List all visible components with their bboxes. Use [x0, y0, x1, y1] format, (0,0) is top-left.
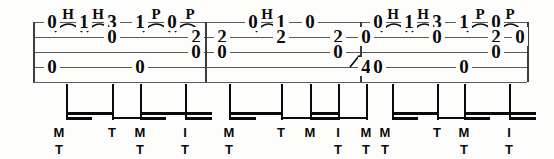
note-stem [229, 84, 231, 120]
fingering-top: M [221, 126, 237, 139]
note-stem [366, 84, 368, 120]
tab-number: 0 [44, 57, 60, 76]
tab-number: 0 [188, 42, 204, 61]
beam [464, 117, 490, 120]
fingering-top: M [456, 126, 472, 139]
note-stem [338, 84, 340, 120]
tab-number: 1 [456, 12, 472, 31]
note-stem [509, 84, 511, 120]
barline [205, 22, 207, 82]
tab-number: 0 [164, 12, 180, 31]
beam [185, 117, 212, 120]
note-stem [185, 84, 187, 120]
fingering-top: M [302, 126, 318, 139]
beam [464, 112, 509, 115]
tab-number: 0 [214, 42, 230, 61]
articulation-label: H [385, 7, 401, 22]
articulation-label: P [502, 7, 518, 22]
fingering-top: M [377, 126, 393, 139]
articulation-label: P [472, 7, 488, 22]
staff-line [33, 67, 527, 68]
fingering-top: T [429, 126, 445, 139]
beam [66, 112, 112, 115]
fingering-bottom: T [132, 143, 148, 156]
note-stem [140, 84, 142, 120]
fingering-bottom: T [456, 143, 472, 156]
tab-number: 0 [456, 57, 472, 76]
note-stem [112, 84, 114, 120]
tab-number: 0 [330, 42, 346, 61]
beam [509, 112, 536, 115]
tab-number: 0 [245, 12, 261, 31]
tab-number: 0 [44, 12, 60, 31]
note-stem [392, 84, 394, 120]
beam [112, 117, 140, 119]
tablature-sheet: HHPPHHHPP 001301002020012020040013010020… [0, 0, 554, 159]
fingering-bottom: T [377, 143, 393, 156]
fingering-bottom: T [330, 143, 346, 156]
tab-number: 1 [76, 12, 92, 31]
articulation-label: P [148, 7, 164, 22]
beam [310, 112, 338, 115]
fingering-top: T [273, 126, 289, 139]
tab-number: 2 [273, 27, 289, 46]
fingering-bottom: T [221, 143, 237, 156]
fingering-top: I [501, 126, 517, 139]
beam [66, 117, 92, 120]
fingering-top: I [177, 126, 193, 139]
beam [437, 117, 464, 119]
note-stem [66, 84, 68, 120]
beam [310, 117, 338, 120]
fingering-bottom: T [177, 143, 193, 156]
beam [338, 117, 366, 119]
tab-number: 0 [104, 27, 120, 46]
staff-line [33, 82, 527, 83]
tab-number: 0 [488, 42, 504, 61]
beam [392, 112, 437, 115]
note-stem [437, 84, 439, 120]
fingering-bottom: T [358, 143, 374, 156]
beam [140, 117, 166, 120]
note-stem [464, 84, 466, 120]
note-stem [281, 84, 283, 120]
tab-number: 0 [132, 57, 148, 76]
tab-number: 0 [370, 57, 386, 76]
staff-end-barline [33, 22, 35, 82]
beam [185, 112, 212, 115]
fingering-bottom: T [501, 143, 517, 156]
beam [229, 117, 256, 120]
tab-number: 0 [512, 27, 528, 46]
articulation-label: P [182, 7, 198, 22]
tab-number: 1 [401, 12, 417, 31]
tab-number: 0 [302, 12, 318, 31]
beam [392, 117, 418, 120]
beam [140, 112, 185, 115]
fingering-top: M [358, 126, 374, 139]
fingering-top: T [104, 126, 120, 139]
articulation-label: H [60, 7, 76, 22]
beam [509, 117, 536, 120]
fingering-top: I [330, 126, 346, 139]
tab-number: 0 [370, 12, 386, 31]
note-stem [310, 84, 312, 120]
tab-number: 0 [429, 27, 445, 46]
beam [281, 117, 310, 119]
staff-line [33, 52, 527, 53]
fingering-top: M [132, 126, 148, 139]
fingering-bottom: T [51, 143, 67, 156]
tab-number: 1 [132, 12, 148, 31]
fingering-top: M [51, 126, 67, 139]
beam [229, 112, 281, 115]
